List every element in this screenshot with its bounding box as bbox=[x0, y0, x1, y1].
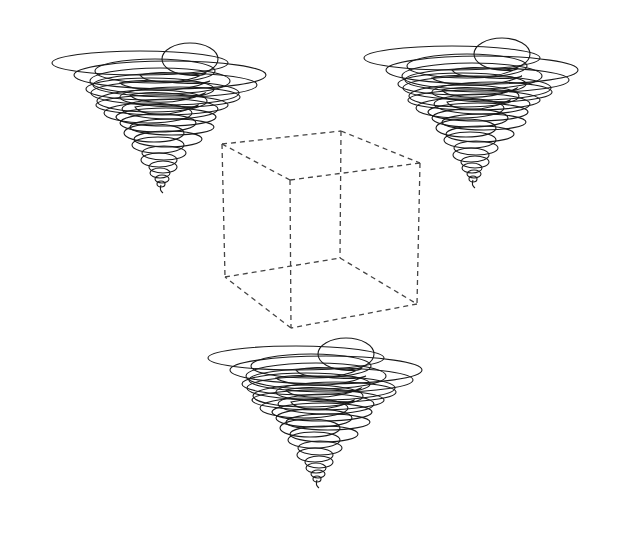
tornado-top-left bbox=[52, 43, 266, 193]
wireframe-cube bbox=[222, 131, 420, 328]
diagram-canvas bbox=[0, 0, 624, 535]
tornado-bottom bbox=[208, 338, 422, 488]
tornado-top-right bbox=[364, 38, 578, 188]
